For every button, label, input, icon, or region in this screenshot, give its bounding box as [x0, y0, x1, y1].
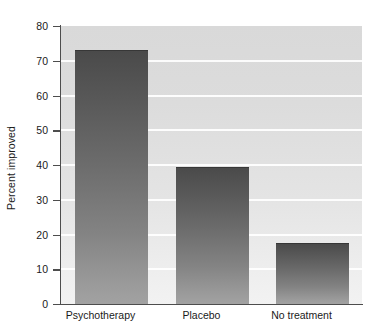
x-tick-label-psychotherapy: Psychotherapy — [50, 310, 151, 321]
x-tick-label-no-treatment: No treatment — [251, 310, 352, 321]
bar-fill — [176, 167, 249, 304]
y-tick-label-70: 70 — [8, 56, 48, 67]
bar-top-edge — [75, 50, 148, 51]
y-tick-mark — [53, 130, 60, 131]
y-tick-label-40: 40 — [8, 160, 48, 171]
y-tick-mark — [53, 26, 60, 27]
y-tick-label-50: 50 — [8, 125, 48, 136]
y-tick-label-20: 20 — [8, 230, 48, 241]
y-tick-mark — [53, 235, 60, 236]
bar-fill — [75, 50, 148, 304]
x-axis-line — [60, 304, 363, 305]
y-tick-mark — [53, 96, 60, 97]
y-tick-label-80: 80 — [8, 21, 48, 32]
plot-area — [61, 26, 362, 304]
y-tick-label-10: 10 — [8, 264, 48, 275]
y-tick-mark — [53, 200, 60, 201]
y-tick-mark — [53, 269, 60, 270]
y-tick-mark — [53, 61, 60, 62]
y-tick-label-0: 0 — [8, 299, 48, 310]
y-tick-label-30: 30 — [8, 195, 48, 206]
y-tick-mark — [53, 165, 60, 166]
x-tick-label-placebo: Placebo — [151, 310, 252, 321]
y-tick-mark — [53, 304, 60, 305]
bar-no-treatment[interactable] — [276, 243, 349, 304]
y-axis-line — [60, 25, 61, 305]
bar-fill — [276, 243, 349, 304]
bar-psychotherapy[interactable] — [75, 50, 148, 304]
y-tick-label-60: 60 — [8, 91, 48, 102]
bar-placebo[interactable] — [176, 167, 249, 304]
bar-chart-figure: Percent improved 80 70 60 50 40 30 — [0, 0, 378, 336]
bar-top-edge — [176, 167, 249, 168]
bar-top-edge — [276, 243, 349, 244]
